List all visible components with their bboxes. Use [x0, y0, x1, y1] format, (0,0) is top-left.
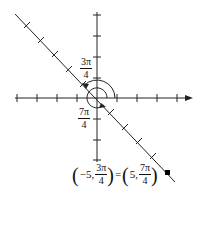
- equivalence-equation: ( −5, 3π 4 ) = ( 5, 7π 4 ): [72, 163, 158, 186]
- angle-arc-3pi-4: [84, 80, 115, 98]
- x-axis-arrow-icon: [185, 95, 193, 101]
- angle-label-7pi-4: 7π 4: [78, 107, 90, 130]
- right-theta: 7π 4: [139, 163, 151, 186]
- left-theta: 3π 4: [95, 163, 107, 186]
- polar-point-marker: [165, 170, 170, 175]
- angle-label-3pi-4: 3π 4: [80, 57, 92, 80]
